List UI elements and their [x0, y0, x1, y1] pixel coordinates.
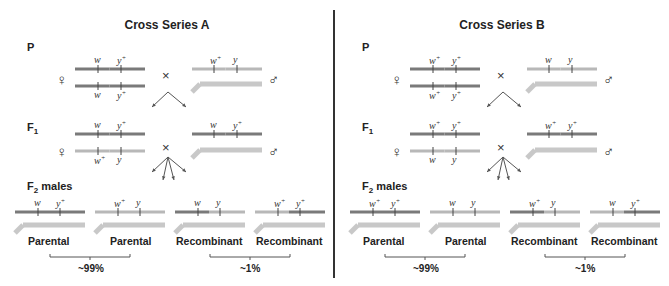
allele-label: w — [194, 197, 201, 208]
female-symbol-icon: ♀ — [391, 143, 402, 160]
allele-label: y+ — [117, 89, 126, 101]
allele-label: w — [545, 54, 552, 65]
allele-label: y — [233, 54, 237, 65]
allele-label: w+ — [429, 89, 440, 101]
allele-label: y — [551, 197, 555, 208]
cross-series-a-panel: Cross Series A P F1 F2 males ♀ ♂ × ♀ ♂ ×… — [0, 0, 334, 286]
allele-label: w+ — [369, 197, 380, 209]
allele-label: y+ — [452, 54, 461, 66]
allele-label: w — [94, 54, 101, 65]
f2-class-label: Recombinant — [176, 235, 243, 247]
f2-class-label: Recombinant — [511, 235, 578, 247]
allele-label: y+ — [631, 197, 640, 209]
female-symbol-icon: ♀ — [56, 71, 67, 88]
f2-class-label: Recombinant — [256, 235, 323, 247]
allele-label: y — [568, 54, 572, 65]
allele-label: y — [117, 154, 121, 165]
allele-label: y+ — [117, 54, 126, 66]
cross-symbol-icon: × — [162, 140, 170, 155]
male-symbol-icon: ♂ — [268, 71, 279, 88]
allele-label: y+ — [296, 197, 305, 209]
male-symbol-icon: ♂ — [268, 143, 279, 160]
allele-label: y — [216, 197, 220, 208]
male-symbol-icon: ♂ — [603, 71, 614, 88]
recombinant-percentage: ~1% — [240, 263, 260, 274]
allele-label: w+ — [429, 54, 440, 66]
allele-label: y+ — [452, 89, 461, 101]
allele-label: w — [429, 154, 436, 165]
male-symbol-icon: ♂ — [603, 143, 614, 160]
allele-label: w — [449, 197, 456, 208]
allele-label: y — [471, 197, 475, 208]
f2-class-label: Parental — [28, 235, 69, 247]
allele-label: y+ — [452, 119, 461, 131]
allele-label: w+ — [274, 197, 285, 209]
f2-class-label: Recombinant — [591, 235, 658, 247]
allele-label: w — [94, 119, 101, 130]
cross-series-b-panel: Cross Series B P F1 F2 males ♀ ♂ × ♀ ♂ ×… — [335, 0, 669, 286]
f2-class-label: Parental — [445, 235, 486, 247]
female-symbol-icon: ♀ — [56, 143, 67, 160]
allele-label: y — [136, 197, 140, 208]
parental-percentage: ~99% — [78, 263, 104, 274]
allele-label: w+ — [545, 119, 556, 131]
allele-label: w — [609, 197, 616, 208]
allele-label: w+ — [210, 54, 221, 66]
allele-label: y — [452, 154, 456, 165]
allele-label: w — [210, 119, 217, 130]
allele-label: w — [94, 89, 101, 100]
cross-symbol-icon: × — [497, 68, 505, 83]
allele-label: y+ — [56, 197, 65, 209]
f2-class-label: Parental — [110, 235, 151, 247]
allele-label: w — [34, 197, 41, 208]
female-symbol-icon: ♀ — [391, 71, 402, 88]
f2-class-label: Parental — [363, 235, 404, 247]
allele-label: w+ — [94, 154, 105, 166]
allele-label: y+ — [233, 119, 242, 131]
allele-label: w+ — [114, 197, 125, 209]
cross-symbol-icon: × — [497, 140, 505, 155]
cross-symbol-icon: × — [162, 68, 170, 83]
allele-label: y+ — [391, 197, 400, 209]
parental-percentage: ~99% — [413, 263, 439, 274]
recombinant-percentage: ~1% — [575, 263, 595, 274]
allele-label: y+ — [117, 119, 126, 131]
allele-label: w+ — [529, 197, 540, 209]
allele-label: y+ — [568, 119, 577, 131]
allele-label: w+ — [429, 119, 440, 131]
